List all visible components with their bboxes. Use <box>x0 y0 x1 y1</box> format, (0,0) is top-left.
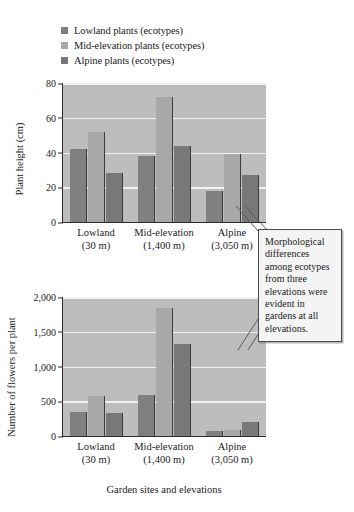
x-axis-tick-name: Lowland <box>62 226 130 239</box>
plot-area-flowers-per-plant: 05001,0001,5002,000 <box>62 297 266 437</box>
x-axis-tick-name: Alpine <box>198 440 266 453</box>
chart-legend: Lowland plants (ecotypes) Mid-elevation … <box>61 24 281 69</box>
bar <box>88 132 105 222</box>
bar <box>242 175 259 222</box>
legend-item: Lowland plants (ecotypes) <box>61 24 281 37</box>
x-axis-tick-elevation: (3,050 m) <box>198 239 266 252</box>
x-axis-tick-label: Lowland(30 m) <box>62 226 130 252</box>
x-axis-tick-label: Alpine(3,050 m) <box>198 440 266 466</box>
callout-text: Morphological differences among ecotypes… <box>265 236 330 334</box>
chart-flowers-per-plant: Number of flowers per plant 05001,0001,5… <box>0 292 280 467</box>
bar <box>242 422 259 436</box>
bar <box>70 149 87 222</box>
bar-group <box>131 83 199 222</box>
legend-item: Mid-elevation plants (ecotypes) <box>61 39 281 52</box>
x-axis-tick-name: Mid-elevation <box>130 440 198 453</box>
callout-box: Morphological differences among ecotypes… <box>258 229 342 342</box>
y-axis-tick-label: 60 <box>10 112 63 123</box>
bars-plant-height <box>63 83 266 222</box>
bar <box>206 191 223 222</box>
bar <box>106 173 123 222</box>
x-axis-title: Garden sites and elevations <box>62 484 266 495</box>
bar <box>138 395 155 436</box>
bars-flowers-per-plant <box>63 297 266 436</box>
legend-swatch-lowland <box>61 27 68 34</box>
x-axis-tick-label: Lowland(30 m) <box>62 440 130 466</box>
bar <box>174 146 191 222</box>
bar <box>156 308 173 436</box>
x-axis-tick-elevation: (30 m) <box>62 239 130 252</box>
plot-wrap-flowers-per-plant: 05001,0001,5002,000 <box>62 297 266 437</box>
x-axis-tick-name: Lowland <box>62 440 130 453</box>
x-axis-labels-plant-height: Lowland(30 m)Mid-elevation(1,400 m)Alpin… <box>62 226 266 252</box>
bar-group <box>198 297 266 436</box>
x-axis-tick-elevation: (1,400 m) <box>130 239 198 252</box>
x-axis-tick-label: Mid-elevation(1,400 m) <box>130 440 198 466</box>
bar <box>70 412 87 436</box>
x-axis-tick-elevation: (3,050 m) <box>198 453 266 466</box>
y-axis-tick-label: 2,000 <box>10 292 63 303</box>
chart-plant-height: Plant height (cm) 020406080 Lowland(30 m… <box>0 78 280 253</box>
y-axis-tick-label: 0 <box>10 431 63 442</box>
bar-group <box>198 83 266 222</box>
plot-wrap-plant-height: 020406080 <box>62 83 266 223</box>
y-axis-tick-label: 500 <box>10 396 63 407</box>
bar-group <box>63 297 131 436</box>
y-axis-tick-label: 1,500 <box>10 326 63 337</box>
x-axis-tick-label: Alpine(3,050 m) <box>198 226 266 252</box>
bar <box>224 430 241 436</box>
bar <box>206 431 223 436</box>
x-axis-tick-elevation: (30 m) <box>62 453 130 466</box>
bar <box>174 344 191 436</box>
y-axis-tick-label: 1,000 <box>10 361 63 372</box>
y-axis-tick-label: 0 <box>10 217 63 228</box>
y-axis-label-flowers-per-plant: Number of flowers per plant <box>6 302 20 452</box>
bar-group <box>63 83 131 222</box>
x-axis-labels-flowers-per-plant: Lowland(30 m)Mid-elevation(1,400 m)Alpin… <box>62 440 266 466</box>
y-axis-tick-label: 80 <box>10 78 63 89</box>
legend-item: Alpine plants (ecotypes) <box>61 54 281 67</box>
legend-label-lowland: Lowland plants (ecotypes) <box>74 25 183 36</box>
x-axis-tick-label: Mid-elevation(1,400 m) <box>130 226 198 252</box>
x-axis-tick-name: Mid-elevation <box>130 226 198 239</box>
legend-swatch-alpine <box>61 57 68 64</box>
bar <box>138 156 155 222</box>
bar <box>156 97 173 222</box>
y-axis-label-plant-height: Plant height (cm) <box>14 84 28 234</box>
x-axis-tick-elevation: (1,400 m) <box>130 453 198 466</box>
bar <box>106 413 123 436</box>
legend-label-mid-elevation: Mid-elevation plants (ecotypes) <box>74 40 204 51</box>
bar <box>88 396 105 436</box>
y-axis-tick-label: 40 <box>10 147 63 158</box>
plot-area-plant-height: 020406080 <box>62 83 266 223</box>
y-axis-tick-label: 20 <box>10 182 63 193</box>
legend-label-alpine: Alpine plants (ecotypes) <box>74 55 174 66</box>
bar-group <box>131 297 199 436</box>
bar <box>224 154 241 222</box>
legend-swatch-mid-elevation <box>61 42 68 49</box>
x-axis-tick-name: Alpine <box>198 226 266 239</box>
